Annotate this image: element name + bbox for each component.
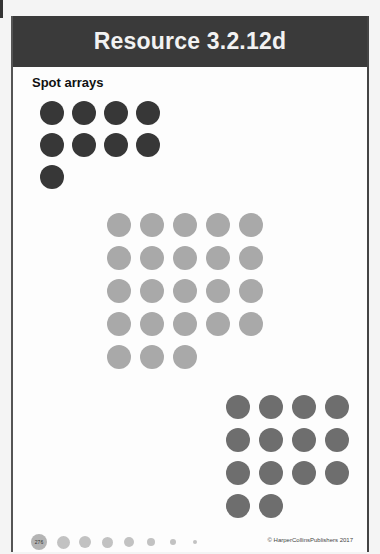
spot [325, 461, 349, 485]
spot [173, 312, 197, 336]
decorative-dot [147, 538, 155, 546]
spot [226, 428, 250, 452]
spot [40, 101, 64, 125]
resource-page: Resource 3.2.12d Spot arrays 276 © Harpe… [11, 16, 369, 552]
spot [140, 246, 164, 270]
spot [173, 213, 197, 237]
spot [40, 165, 64, 189]
spot [239, 312, 263, 336]
decorative-dot [57, 536, 70, 549]
spot [325, 395, 349, 419]
spot [136, 133, 160, 157]
spot [206, 246, 230, 270]
spot [140, 279, 164, 303]
spot [173, 345, 197, 369]
spot [226, 395, 250, 419]
spot [226, 494, 250, 518]
spot [292, 428, 316, 452]
spot [239, 279, 263, 303]
page-number: 276 [31, 534, 47, 550]
spot [140, 345, 164, 369]
spot [72, 133, 96, 157]
spot [259, 461, 283, 485]
spot [140, 312, 164, 336]
spot [107, 345, 131, 369]
spot [104, 133, 128, 157]
decorative-dot [124, 537, 134, 547]
spot [259, 494, 283, 518]
spot [292, 395, 316, 419]
spot [107, 279, 131, 303]
spot [206, 213, 230, 237]
spot [239, 213, 263, 237]
spot [226, 461, 250, 485]
spot [259, 395, 283, 419]
section-subtitle: Spot arrays [32, 75, 104, 90]
copyright-notice: © HarperCollinsPublishers 2017 [268, 537, 353, 543]
spot [206, 279, 230, 303]
spot [107, 312, 131, 336]
header-band: Resource 3.2.12d [13, 16, 367, 67]
spot [325, 428, 349, 452]
decorative-dot [79, 536, 91, 548]
decorative-dot [102, 537, 113, 548]
spot [104, 101, 128, 125]
page-edge-mark [0, 0, 3, 18]
page-title: Resource 3.2.12d [94, 28, 286, 55]
spot [107, 213, 131, 237]
spot [239, 246, 263, 270]
spot [72, 101, 96, 125]
spot [107, 246, 131, 270]
spot [259, 428, 283, 452]
decorative-dot [193, 540, 197, 544]
spot [40, 133, 64, 157]
spot [206, 312, 230, 336]
spot [292, 461, 316, 485]
spot [140, 213, 164, 237]
decorative-dot [170, 539, 176, 545]
spot [173, 279, 197, 303]
spot [173, 246, 197, 270]
spot [136, 101, 160, 125]
